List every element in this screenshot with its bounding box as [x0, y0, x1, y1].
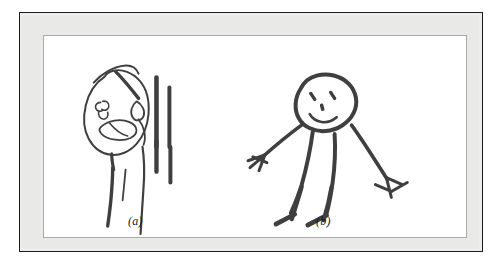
drawing-a — [84, 66, 170, 234]
left-leg-a — [108, 168, 113, 226]
torso-left-b — [291, 132, 313, 213]
mouth-a — [99, 120, 136, 140]
mouth-inner-a — [110, 123, 128, 136]
right-eye-b — [331, 92, 335, 98]
drawing-field: (a) (b) — [43, 35, 467, 238]
left-arm-b — [264, 124, 303, 156]
mouth-b — [310, 114, 337, 122]
right-hand-b — [375, 178, 407, 198]
figure-plate: (a) (b) — [0, 0, 502, 265]
drawings-canvas — [44, 36, 466, 237]
left-eye-a — [96, 101, 109, 119]
figure-label-b: (b) — [316, 214, 331, 229]
left-eye-b — [311, 93, 315, 99]
figure-label-a: (a) — [128, 214, 143, 229]
plate-mat: (a) (b) — [23, 16, 479, 248]
plate-outer-frame: (a) (b) — [19, 12, 483, 252]
nose-b — [322, 105, 323, 109]
right-eye-a — [131, 101, 144, 120]
left-hand-b — [248, 155, 267, 171]
right-arm-b — [352, 125, 388, 179]
drawing-b — [248, 74, 407, 225]
short-stroke-a — [123, 170, 126, 201]
